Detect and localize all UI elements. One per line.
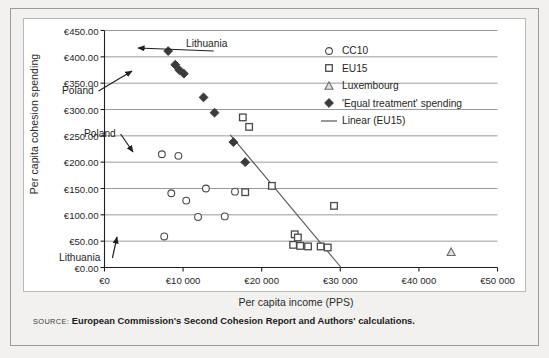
legend-item: Luxembourg xyxy=(316,77,462,95)
y-tick-label: €0.00 xyxy=(39,262,99,273)
legend-item: CC10 xyxy=(316,42,462,60)
x-axis-title: Per capita income (PPS) xyxy=(196,296,396,308)
legend-item-label: EU15 xyxy=(342,63,367,74)
x-tick-label: €20 000 xyxy=(222,275,302,286)
x-tick-label: €50 000 xyxy=(458,275,538,286)
x-tick-label: €0 xyxy=(65,275,145,286)
x-tick-label: €30 000 xyxy=(300,275,380,286)
y-tick-label: €100.00 xyxy=(39,209,99,220)
legend-item-label: CC10 xyxy=(342,45,368,56)
legend-item-label: Luxembourg xyxy=(342,80,399,91)
y-tick-label: €450.00 xyxy=(39,25,99,36)
triangle-open-icon xyxy=(316,79,342,93)
chart-legend: CC10EU15Luxembourg'Equal treatment' spen… xyxy=(316,42,462,130)
figure-container: Per capita cohesion spending Per capita … xyxy=(0,0,549,358)
legend-item: Linear (EU15) xyxy=(316,112,462,130)
diamond-filled-icon xyxy=(316,96,342,110)
annot-poland-diamond: Poland xyxy=(62,85,94,96)
annot-lithuania-bottom: Lithuania xyxy=(59,252,100,263)
source-note: SOURCE: European Commission's Second Coh… xyxy=(33,315,415,326)
legend-item-label: Linear (EU15) xyxy=(342,115,405,126)
x-tick-label: €40 000 xyxy=(379,275,459,286)
circle-open-icon xyxy=(316,44,342,58)
x-tick-label: €10 000 xyxy=(143,275,223,286)
square-open-icon xyxy=(316,61,342,75)
legend-item: 'Equal treatment' spending xyxy=(316,95,462,113)
line-segment-icon xyxy=(316,114,342,128)
y-tick-label: €50.00 xyxy=(39,236,99,247)
legend-item-label: 'Equal treatment' spending xyxy=(342,98,462,109)
annot-poland-circle: Poland xyxy=(84,128,116,139)
y-tick-label: €300.00 xyxy=(39,104,99,115)
y-tick-label: €200.00 xyxy=(39,157,99,168)
legend-item: EU15 xyxy=(316,60,462,78)
annot-lithuania-top: Lithuania xyxy=(186,38,227,49)
source-label: SOURCE: xyxy=(33,317,69,326)
y-tick-label: €150.00 xyxy=(39,183,99,194)
y-tick-label: €400.00 xyxy=(39,51,99,62)
source-text: European Commission's Second Cohesion Re… xyxy=(72,315,415,326)
